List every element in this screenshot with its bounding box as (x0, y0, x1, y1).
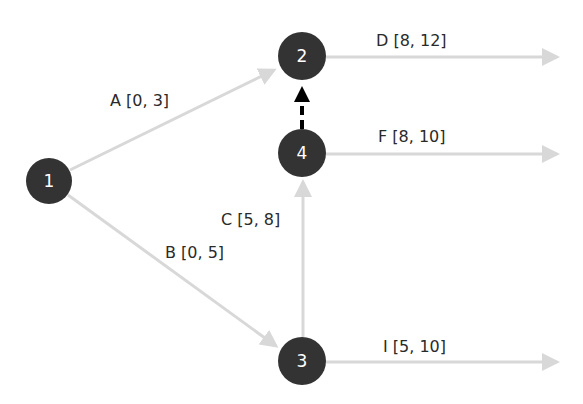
node-3: 3 (278, 337, 326, 385)
label-c: C [5, 8] (221, 210, 280, 229)
network-diagram: A [0, 3] B [0, 5] C [5, 8] D [8, 12] F [… (0, 0, 583, 404)
node-4-label: 4 (297, 143, 308, 163)
node-1: 1 (26, 158, 72, 204)
edge-a (70, 70, 274, 170)
node-2-label: 2 (297, 46, 308, 66)
node-2: 2 (278, 32, 326, 80)
label-d: D [8, 12] (376, 31, 447, 50)
label-f: F [8, 10] (378, 127, 445, 146)
node-3-label: 3 (297, 351, 308, 371)
label-i: I [5, 10] (383, 337, 446, 356)
label-b: B [0, 5] (165, 243, 224, 262)
node-1-label: 1 (44, 171, 55, 191)
label-a: A [0, 3] (110, 91, 169, 110)
node-4: 4 (278, 129, 326, 177)
